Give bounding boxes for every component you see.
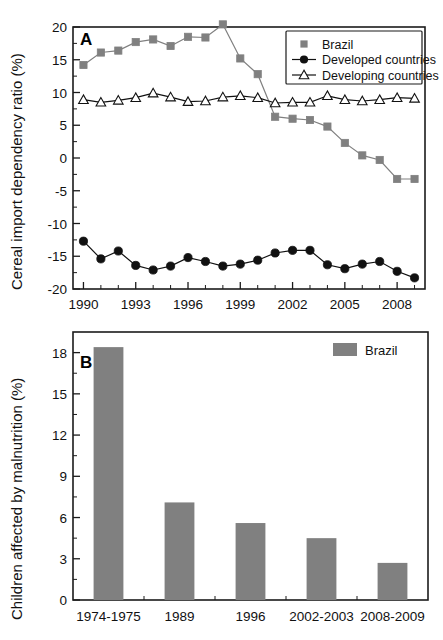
panel-a-y-tick-label: -10 bbox=[47, 217, 67, 232]
panel-a-x-tick-label: 1999 bbox=[225, 297, 255, 312]
panel-b-x-tick-labels: 1974-1975198919962002-20032008-2009 bbox=[76, 609, 425, 624]
panel-b-legend: Brazil bbox=[333, 343, 398, 358]
panel-a-cereal-import-dependency: Cereal import dependency ratio (%) -20-1… bbox=[0, 0, 443, 320]
panel-a-marker-triangle bbox=[392, 93, 402, 102]
panel-b-bar bbox=[94, 347, 124, 600]
panel-b-y-axis-title-text: Children affected by malnutrition (%) bbox=[8, 378, 25, 620]
figure-container: Cereal import dependency ratio (%) -20-1… bbox=[0, 0, 443, 640]
panel-a-y-tick-labels: -20-15-10-505101520 bbox=[47, 20, 67, 297]
panel-a-marker-square bbox=[80, 61, 87, 68]
panel-a-x-tick-label: 2008 bbox=[382, 297, 412, 312]
panel-a-marker-square bbox=[376, 156, 383, 163]
panel-b-bar bbox=[378, 563, 408, 600]
panel-b-y-tick-label: 3 bbox=[59, 552, 67, 567]
panel-a-marker-square bbox=[167, 42, 174, 49]
panel-a-marker-square bbox=[97, 49, 104, 56]
panel-a-marker-triangle bbox=[323, 91, 333, 100]
panel-b-y-tick-labels: 0369121518 bbox=[52, 346, 67, 608]
panel-a-marker-circle bbox=[376, 257, 384, 265]
panel-a-marker-circle bbox=[114, 247, 122, 255]
panel-a-marker-circle bbox=[166, 262, 174, 270]
panel-a-y-tick-label: 20 bbox=[52, 20, 67, 35]
panel-a-marker-square bbox=[306, 116, 313, 123]
panel-a-legend-label: Brazil bbox=[322, 38, 353, 52]
panel-a-marker-square bbox=[184, 33, 191, 40]
panel-a-marker-circle bbox=[236, 260, 244, 268]
panel-a-legend: BrazilDeveloped countriesDeveloping coun… bbox=[286, 31, 439, 84]
panel-b-x-tick-label: 1996 bbox=[235, 609, 265, 624]
panel-b-x-tick-label: 1974-1975 bbox=[76, 609, 141, 624]
panel-a-marker-square bbox=[341, 139, 348, 146]
panel-a-y-tick-label: -5 bbox=[55, 184, 67, 199]
panel-a-marker-square bbox=[324, 123, 331, 130]
panel-b-letter: B bbox=[80, 353, 92, 372]
panel-b-y-tick-label: 6 bbox=[59, 511, 67, 526]
panel-a-marker-square bbox=[202, 34, 209, 41]
panel-a-legend-label: Developed countries bbox=[322, 53, 436, 67]
panel-b-x-tick-label: 1989 bbox=[164, 609, 194, 624]
panel-a-marker-square bbox=[254, 71, 261, 78]
panel-b-y-tick-label: 12 bbox=[52, 428, 67, 443]
panel-a-marker-square bbox=[150, 36, 157, 43]
panel-a-legend-marker-square bbox=[300, 40, 307, 47]
panel-b-legend-label: Brazil bbox=[365, 343, 398, 358]
panel-b-child-malnutrition: Children affected by malnutrition (%) 03… bbox=[0, 320, 443, 640]
panel-b-y-tick-label: 18 bbox=[52, 346, 67, 361]
panel-a-x-tick-label: 1993 bbox=[121, 297, 151, 312]
panel-a-marker-square bbox=[115, 47, 122, 54]
panel-a-marker-circle bbox=[184, 253, 192, 261]
panel-a-y-tick-label: 5 bbox=[59, 118, 67, 133]
panel-b-x-tick-label: 2008-2009 bbox=[360, 609, 425, 624]
panel-a-svg: Cereal import dependency ratio (%) -20-1… bbox=[0, 0, 443, 320]
panel-a-marker-circle bbox=[323, 261, 331, 269]
panel-a-marker-circle bbox=[288, 246, 296, 254]
panel-a-x-tick-label: 1990 bbox=[68, 297, 98, 312]
panel-a-marker-circle bbox=[201, 257, 209, 265]
panel-b-y-tick-label: 9 bbox=[59, 469, 67, 484]
panel-a-marker-square bbox=[132, 38, 139, 45]
panel-a-marker-circle bbox=[341, 265, 349, 273]
panel-b-bar bbox=[165, 502, 195, 600]
panel-a-marker-square bbox=[219, 21, 226, 28]
panel-a-marker-circle bbox=[219, 262, 227, 270]
panel-a-marker-square bbox=[272, 113, 279, 120]
panel-b-y-tick-label: 0 bbox=[59, 593, 67, 608]
panel-a-marker-triangle bbox=[235, 91, 245, 100]
panel-a-y-tick-label: -15 bbox=[47, 249, 67, 264]
panel-b-y-tick-label: 15 bbox=[52, 387, 67, 402]
panel-b-bar bbox=[236, 523, 266, 600]
panel-a-marker-circle bbox=[97, 255, 105, 263]
panel-a-marker-circle bbox=[393, 267, 401, 275]
panel-a-marker-square bbox=[289, 115, 296, 122]
panel-a-marker-triangle bbox=[79, 95, 89, 104]
panel-a-legend-marker-circle bbox=[300, 55, 308, 63]
panel-b-bars bbox=[94, 347, 408, 600]
panel-b-legend-swatch bbox=[333, 343, 357, 356]
panel-a-x-tick-labels: 1990199319961999200220052008 bbox=[68, 297, 412, 312]
panel-b-y-axis-title: Children affected by malnutrition (%) bbox=[8, 378, 25, 620]
panel-a-marker-circle bbox=[410, 274, 418, 282]
panel-a-marker-square bbox=[411, 175, 418, 182]
panel-a-marker-circle bbox=[306, 246, 314, 254]
panel-b-bar bbox=[307, 538, 337, 600]
panel-a-marker-circle bbox=[132, 261, 140, 269]
panel-a-letter: A bbox=[80, 30, 92, 49]
panel-a-x-tick-label: 1996 bbox=[173, 297, 203, 312]
panel-a-y-tick-label: 0 bbox=[59, 151, 67, 166]
panel-a-y-tick-label: 15 bbox=[52, 53, 67, 68]
panel-b-x-tick-label: 2002-2003 bbox=[289, 609, 354, 624]
panel-a-marker-square bbox=[394, 175, 401, 182]
panel-a-y-axis-title-text: Cereal import dependency ratio (%) bbox=[8, 53, 25, 290]
panel-a-marker-circle bbox=[79, 237, 87, 245]
panel-a-marker-circle bbox=[358, 260, 366, 268]
panel-a-y-tick-label: 10 bbox=[52, 86, 67, 101]
panel-a-x-tick-label: 2005 bbox=[330, 297, 360, 312]
panel-a-x-tick-label: 2002 bbox=[278, 297, 308, 312]
panel-a-marker-circle bbox=[254, 256, 262, 264]
panel-a-y-axis-title: Cereal import dependency ratio (%) bbox=[8, 53, 25, 290]
panel-a-y-tick-label: -20 bbox=[47, 282, 67, 297]
panel-b-svg: Children affected by malnutrition (%) 03… bbox=[0, 320, 443, 640]
panel-a-marker-square bbox=[237, 55, 244, 62]
panel-a-marker-circle bbox=[271, 249, 279, 257]
panel-a-marker-triangle bbox=[148, 88, 158, 97]
